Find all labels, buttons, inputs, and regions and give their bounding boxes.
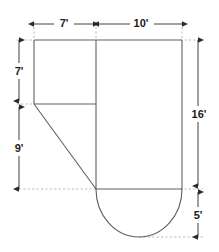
dimension-label-right-lower: 5' xyxy=(194,209,203,221)
dimension-label-left-upper: 7' xyxy=(15,65,24,77)
floor-plan-drawing: 7' 10' 7' 9' 16' 5' xyxy=(0,0,219,252)
dimension-label-top-left: 7' xyxy=(60,17,69,29)
dimension-labels: 7' 10' 7' 9' 16' 5' xyxy=(10,15,211,223)
outline-diagonal-chamfer xyxy=(34,104,96,189)
outline-semicircle-bay xyxy=(96,189,182,237)
plan-outline xyxy=(34,40,182,237)
dimension-label-top-right: 10' xyxy=(134,17,149,29)
dimension-lines xyxy=(19,24,198,237)
extension-lines xyxy=(15,20,203,237)
floor-plan-figure: 7' 10' 7' 9' 16' 5' xyxy=(0,0,219,252)
dimension-label-right-upper: 16' xyxy=(192,108,207,120)
dimension-label-left-lower: 9' xyxy=(15,142,24,154)
